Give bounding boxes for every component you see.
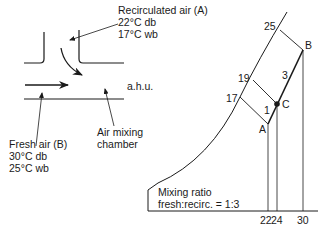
ratio-label-1: 1 bbox=[264, 105, 270, 116]
duct-left-branch-wall bbox=[24, 32, 44, 63]
fresh-air-title: Fresh air (B) bbox=[9, 138, 67, 150]
psychro-chart bbox=[148, 12, 318, 211]
ahu-duct bbox=[24, 30, 124, 99]
wb-line-25 bbox=[280, 30, 303, 50]
point-c-marker-icon bbox=[274, 101, 280, 107]
db-tick-24: 24 bbox=[271, 215, 283, 226]
wb-line-19 bbox=[253, 80, 277, 104]
wb-label-25: 25 bbox=[264, 21, 276, 32]
mixing-ratio-note-line1: Mixing ratio bbox=[158, 186, 212, 198]
point-b-label: B bbox=[305, 40, 312, 51]
chamber-leader-arrow-icon bbox=[105, 89, 114, 126]
point-c-label: C bbox=[282, 99, 290, 110]
fresh-air-db: 30°C db bbox=[9, 150, 47, 162]
recirculated-air-title: Recirculated air (A) bbox=[118, 4, 208, 16]
wb-label-19: 19 bbox=[238, 73, 250, 84]
db-tick-30: 30 bbox=[297, 215, 309, 226]
ratio-label-3: 3 bbox=[282, 70, 288, 81]
mixing-chamber-label-line2: chamber bbox=[97, 138, 138, 150]
mixing-ratio-note-line2: fresh:recirc. = 1:3 bbox=[158, 198, 239, 210]
recirculated-air-db: 22°C db bbox=[118, 16, 156, 28]
recirculated-air-wb: 17°C wb bbox=[118, 28, 158, 40]
point-a-label: A bbox=[259, 124, 266, 135]
mixing-chamber-label-line1: Air mixing bbox=[97, 126, 143, 138]
fresh-air-wb: 25°C wb bbox=[9, 162, 49, 174]
mixing-line-AB bbox=[268, 50, 303, 124]
ahu-label: a.h.u. bbox=[127, 80, 153, 92]
airflow-arrows bbox=[25, 48, 82, 85]
wb-label-17: 17 bbox=[226, 93, 238, 104]
db-tick-22: 22 bbox=[260, 215, 272, 226]
recirc-leader-arrow-icon bbox=[70, 24, 118, 40]
